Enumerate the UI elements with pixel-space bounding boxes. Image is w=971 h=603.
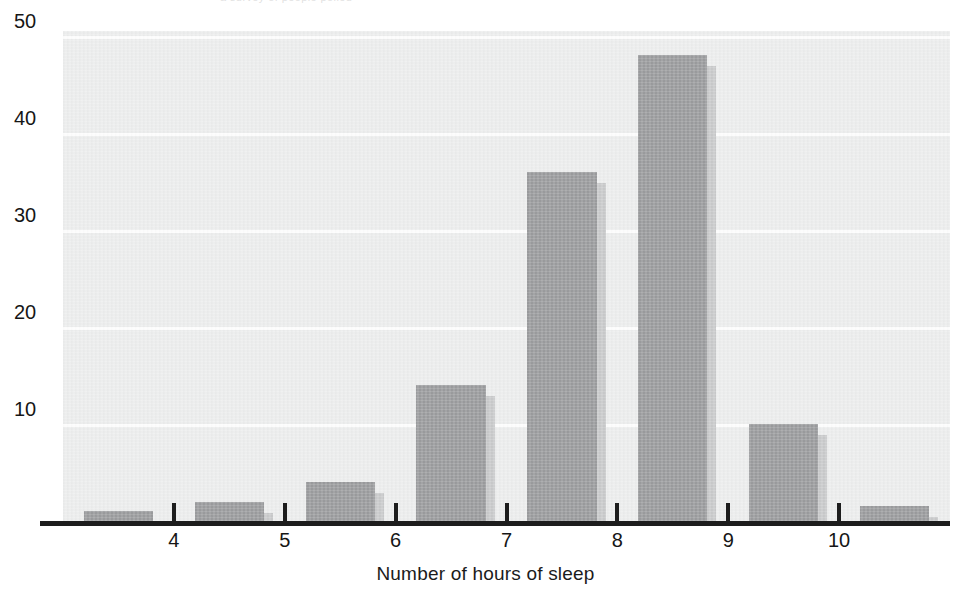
- bar-5-6[interactable]: [306, 482, 375, 521]
- x-tick-label-10: 10: [809, 529, 869, 552]
- x-tick-mark-6: [394, 503, 398, 522]
- x-tick-mark-5: [283, 503, 287, 522]
- bar-4-5[interactable]: [195, 502, 264, 521]
- bar-8-9[interactable]: [638, 55, 707, 521]
- bar-7-8[interactable]: [527, 172, 596, 521]
- x-axis-title: Number of hours of sleep: [0, 563, 971, 585]
- gridline-30: [63, 230, 950, 233]
- x-tick-label-9: 9: [698, 529, 758, 552]
- bar-9-10[interactable]: [749, 424, 818, 521]
- x-tick-mark-8: [615, 503, 619, 522]
- x-axis-line: [40, 521, 950, 526]
- gridline-40: [63, 133, 950, 136]
- x-tick-label-6: 6: [366, 529, 426, 552]
- y-tick-label-50: 50: [14, 10, 60, 33]
- y-tick-label-40: 40: [14, 107, 60, 130]
- y-tick-label-30: 30: [14, 204, 60, 227]
- bar-6-7[interactable]: [416, 385, 485, 521]
- x-tick-label-8: 8: [587, 529, 647, 552]
- x-tick-mark-10: [837, 503, 841, 522]
- x-tick-label-5: 5: [255, 529, 315, 552]
- bar-10-11[interactable]: [860, 506, 929, 521]
- y-tick-label-10: 10: [14, 398, 60, 421]
- x-tick-label-7: 7: [477, 529, 537, 552]
- gridline-20: [63, 327, 950, 330]
- x-tick-mark-9: [726, 503, 730, 522]
- x-tick-mark-7: [505, 503, 509, 522]
- plot-area: [63, 31, 950, 521]
- sleep-hours-histogram-figure: Percent of people polled 1020304050 4567…: [0, 0, 971, 603]
- y-tick-label-20: 20: [14, 301, 60, 324]
- gridline-50: [63, 36, 950, 39]
- x-tick-mark-4: [172, 503, 176, 522]
- bar-3-4[interactable]: [84, 511, 153, 521]
- x-tick-label-4: 4: [144, 529, 204, 552]
